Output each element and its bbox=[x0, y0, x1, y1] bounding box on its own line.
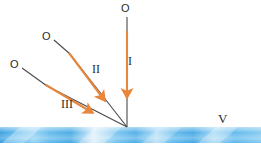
ray-2-dark-head bbox=[54, 40, 70, 54]
ray-2-group bbox=[54, 40, 127, 127]
ray-1-label: I bbox=[128, 56, 132, 67]
ray-3-origin-label: O bbox=[10, 59, 19, 70]
ray-3-group bbox=[22, 68, 127, 127]
ray-2-origin-label: O bbox=[42, 31, 51, 42]
ray-3-label: III bbox=[61, 99, 73, 110]
surface-label: V bbox=[218, 113, 227, 124]
ray-1-origin-label: O bbox=[121, 3, 130, 14]
reflective-surface-band bbox=[0, 127, 261, 143]
ray-2-orange bbox=[69, 53, 105, 101]
ray-2-label: II bbox=[92, 64, 100, 75]
ray-diagram-figure: O O O I II III V Marco A. Sismotto bbox=[0, 0, 261, 146]
ray-3-dark-head bbox=[22, 68, 47, 86]
